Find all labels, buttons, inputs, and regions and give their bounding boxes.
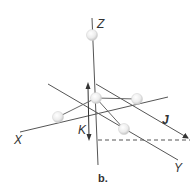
z-axis-label: Z <box>96 17 105 31</box>
coordinate-diagram: Z X Y J K b. <box>0 0 195 190</box>
k-vector-label: K <box>78 123 87 137</box>
k-arrow-down-icon <box>87 134 92 141</box>
y-axis-label: Y <box>174 161 183 175</box>
k-vector-line <box>88 87 89 137</box>
atom-lower-right <box>119 124 130 135</box>
y-axis-line <box>48 84 178 160</box>
atom-right <box>132 94 143 105</box>
atom-top <box>87 30 98 41</box>
x-axis-label: X <box>13 133 23 147</box>
bond-center-right <box>96 98 137 99</box>
atom-left <box>53 112 64 123</box>
atom-center <box>91 93 102 104</box>
j-vector-label: J <box>162 113 169 127</box>
k-arrow-up-icon <box>86 82 91 89</box>
figure-caption: b. <box>98 172 108 184</box>
